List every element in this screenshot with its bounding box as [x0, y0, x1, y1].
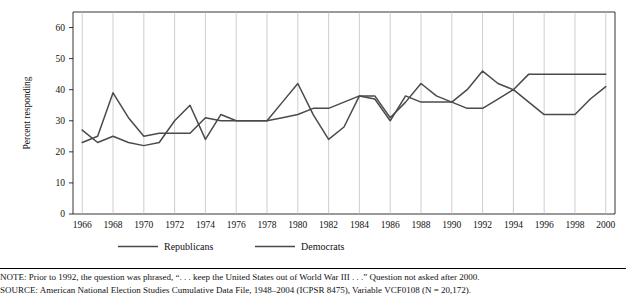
- x-tick-label: 1990: [442, 220, 461, 230]
- x-tick-label: 1982: [319, 220, 338, 230]
- x-tick-label: 1992: [473, 220, 492, 230]
- y-tick-label: 30: [56, 116, 66, 126]
- x-axis: 1966196819701972197419761978198019821984…: [73, 220, 616, 230]
- x-tick-label: 1998: [565, 220, 584, 230]
- vertical-gridlines: [82, 12, 606, 214]
- x-tick-label: 1966: [73, 220, 92, 230]
- war-concern-line-chart: 0102030405060Percent responding196619681…: [0, 0, 626, 268]
- x-tick-label: 1974: [196, 220, 215, 230]
- x-tick-label: 1972: [165, 220, 184, 230]
- x-tick-label: 1976: [227, 220, 246, 230]
- x-tick-label: 1986: [381, 220, 400, 230]
- legend-label-republicans: Republicans: [164, 241, 214, 252]
- y-tick-label: 40: [56, 85, 66, 95]
- series-line-republicans: [82, 71, 606, 146]
- y-tick-label: 20: [56, 147, 66, 157]
- x-tick-label: 1980: [288, 220, 307, 230]
- y-tick-label: 0: [60, 209, 65, 219]
- chart-note-line2: SOURCE: American National Election Studi…: [0, 285, 626, 296]
- y-axis-title: Percent responding: [22, 76, 32, 149]
- footer-divider: [0, 268, 626, 269]
- x-tick-label: 1996: [535, 220, 554, 230]
- x-tick-label: 1978: [258, 220, 277, 230]
- chart-note-line1: NOTE: Prior to 1992, the question was ph…: [0, 272, 626, 283]
- x-tick-label: 1988: [411, 220, 430, 230]
- x-tick-label: 2000: [596, 220, 615, 230]
- y-tick-label: 60: [56, 23, 66, 33]
- x-tick-label: 1984: [350, 220, 369, 230]
- chart-legend: RepublicansDemocrats: [118, 241, 344, 252]
- chart-container: 0102030405060Percent responding196619681…: [0, 0, 626, 296]
- x-tick-label: 1994: [504, 220, 523, 230]
- x-tick-label: 1970: [134, 220, 153, 230]
- legend-label-democrats: Democrats: [301, 241, 344, 252]
- plot-frame: [73, 12, 615, 214]
- y-tick-label: 10: [56, 178, 66, 188]
- series-line-democrats: [82, 87, 606, 143]
- y-axis: 0102030405060: [56, 23, 74, 219]
- x-tick-label: 1968: [104, 220, 123, 230]
- y-tick-label: 50: [56, 54, 66, 64]
